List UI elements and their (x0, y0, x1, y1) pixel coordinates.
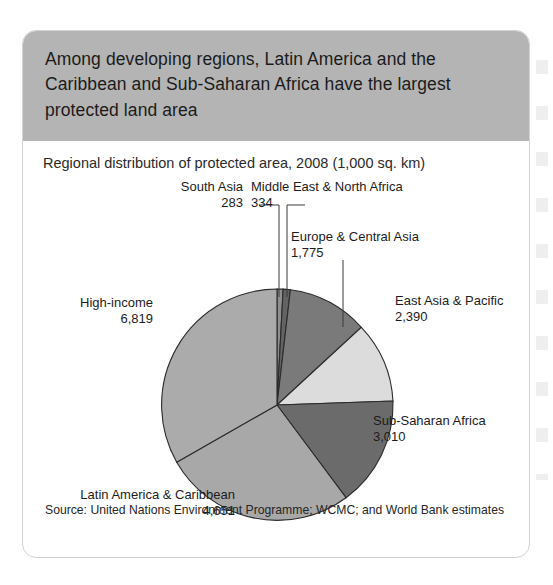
label-lac-name: Latin America & Caribbean (80, 487, 235, 502)
label-mena-value: 334 (251, 195, 403, 211)
label-eca-name: Europe & Central Asia (291, 229, 419, 244)
label-high-income: High-income 6,819 (43, 295, 153, 328)
pie-slices (162, 289, 393, 520)
label-middle-east-north-africa: Middle East & North Africa 334 (251, 179, 403, 212)
figure-body: Regional distribution of protected area,… (23, 141, 529, 547)
pie-chart: South Asia 283 Middle East & North Afric… (43, 175, 511, 530)
label-south-asia-name: South Asia (181, 179, 243, 194)
label-ssa-value: 3,010 (373, 429, 486, 445)
page-margin-marks (536, 60, 548, 480)
label-eap-value: 2,390 (395, 309, 503, 325)
label-high-income-value: 6,819 (43, 311, 153, 327)
label-ssa-name: Sub-Saharan Africa (373, 413, 486, 428)
label-sub-saharan-africa: Sub-Saharan Africa 3,010 (373, 413, 486, 446)
chart-subtitle: Regional distribution of protected area,… (43, 155, 509, 171)
source-note: Source: United Nations Environment Progr… (45, 502, 505, 519)
label-europe-central-asia: Europe & Central Asia 1,775 (291, 229, 419, 262)
label-mena-name: Middle East & North Africa (251, 179, 403, 194)
label-east-asia-pacific: East Asia & Pacific 2,390 (395, 293, 503, 326)
label-high-income-name: High-income (80, 295, 153, 310)
figure-card: Among developing regions, Latin America … (22, 30, 530, 558)
label-eap-name: East Asia & Pacific (395, 293, 503, 308)
label-south-asia-value: 283 (139, 195, 243, 211)
figure-header: Among developing regions, Latin America … (23, 31, 529, 141)
label-eca-value: 1,775 (291, 245, 419, 261)
pie-svg (43, 175, 511, 530)
page-title: Among developing regions, Latin America … (45, 47, 507, 123)
label-south-asia: South Asia 283 (139, 179, 243, 212)
leader-south-asia (259, 205, 279, 297)
